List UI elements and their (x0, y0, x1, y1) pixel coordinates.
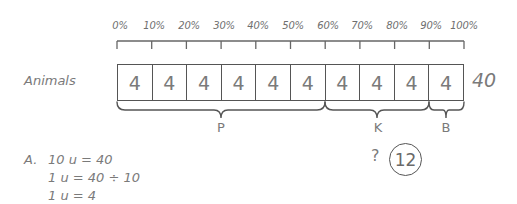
brace-label-b: B (442, 120, 451, 135)
brace-label-p: P (217, 120, 225, 135)
question-mark: ? (371, 146, 380, 165)
brace-group (0, 0, 517, 130)
answer-circle: 12 (389, 143, 422, 176)
brace-label-k: K (374, 120, 383, 135)
answer-prefix: A. (24, 152, 37, 167)
working-line-2: 1 u = 40 ÷ 10 (48, 170, 140, 185)
working-line-3: 1 u = 4 (48, 188, 96, 203)
answer-value: 12 (395, 150, 417, 170)
working-line-1: 10 u = 40 (48, 152, 113, 167)
brace-k (325, 102, 429, 118)
brace-b (429, 102, 464, 118)
brace-p (117, 102, 325, 118)
